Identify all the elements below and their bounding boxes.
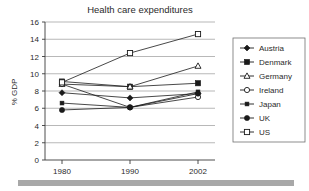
y-tick-label: 0	[35, 156, 40, 165]
y-tick-label: 14	[30, 35, 39, 44]
legend-item-label: US	[259, 128, 270, 137]
data-point-marker	[195, 31, 200, 36]
legend-marker-icon	[244, 115, 249, 120]
x-tick-label: 1990	[121, 167, 139, 176]
health-care-expenditures-line-chart: Health care expenditures 0246810121416 1…	[0, 0, 309, 191]
y-tick-label: 10	[30, 70, 39, 79]
data-point-marker	[59, 107, 64, 112]
x-tick-label: 1980	[53, 167, 71, 176]
y-tick-label: 6	[35, 104, 40, 113]
legend-item-label: UK	[259, 114, 271, 123]
legend-marker-icon	[244, 87, 249, 92]
data-point-marker	[127, 105, 132, 110]
data-point-marker	[195, 81, 200, 86]
y-tick-label: 4	[35, 122, 40, 131]
x-tick-label: 2002	[189, 167, 207, 176]
y-tick-label: 2	[35, 139, 40, 148]
y-axis-title: % GDP	[10, 79, 19, 106]
legend-item-label: Ireland	[259, 86, 283, 95]
legend-marker-icon	[244, 59, 249, 64]
legend-marker-icon	[244, 129, 249, 134]
chart-title: Health care expenditures	[87, 4, 193, 15]
legend-marker-icon	[245, 102, 249, 106]
legend-item-label: Germany	[259, 72, 292, 81]
legend-item-label: Denmark	[259, 58, 292, 67]
chart-container: Health care expenditures 0246810121416 1…	[0, 0, 309, 191]
y-tick-label: 12	[30, 53, 39, 62]
legend-item-label: Japan	[259, 100, 281, 109]
y-tick-label: 8	[35, 87, 40, 96]
data-point-marker	[195, 91, 200, 96]
data-point-marker	[59, 80, 64, 85]
y-tick-label: 16	[30, 18, 39, 27]
data-point-marker	[60, 101, 64, 105]
legend-item-label: Austria	[259, 44, 284, 53]
data-point-marker	[127, 50, 132, 55]
bottom-decoration-bar	[18, 180, 294, 186]
